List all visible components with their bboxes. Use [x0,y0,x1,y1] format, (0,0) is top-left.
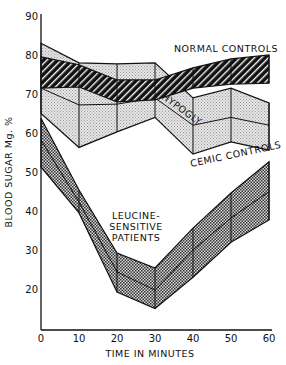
y-tick-label: 50 [25,167,38,178]
chart: 20304050607080900102030405060TIME IN MIN… [0,0,286,365]
x-tick-label: 0 [38,333,44,344]
label-leucine-sensitive-patients: LEUCINE- [112,210,160,221]
x-tick-label: 30 [149,333,162,344]
label-leucine-sensitive-patients: SENSITIVE [109,221,163,232]
x-tick-label: 20 [111,333,124,344]
x-tick-label: 40 [187,333,200,344]
x-tick-label: 50 [225,333,238,344]
x-tick-label: 10 [73,333,86,344]
x-tick-label: 60 [263,333,276,344]
y-tick-label: 40 [25,206,38,217]
label-normal-controls: NORMAL CONTROLS [174,43,278,54]
data-bands [41,43,269,308]
x-axis-label: TIME IN MINUTES [104,348,194,359]
y-tick-label: 60 [25,128,38,139]
y-tick-label: 20 [25,284,38,295]
label-leucine-sensitive-patients: PATIENTS [112,232,160,243]
y-tick-label: 30 [25,245,38,256]
y-tick-label: 90 [25,11,38,22]
y-tick-label: 70 [25,89,38,100]
y-tick-label: 80 [25,50,38,61]
y-axis-label: BLOOD SUGAR Mg. % [3,116,14,227]
